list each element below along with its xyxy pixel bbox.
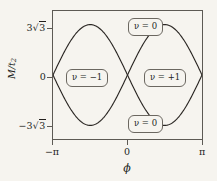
x-tick-mark-right bbox=[202, 140, 203, 145]
x-tick-label-right: π bbox=[187, 146, 217, 157]
x-axis-label: ϕ bbox=[112, 162, 142, 175]
x-tick-label-left: −π bbox=[37, 146, 67, 157]
sqrt-icon: √ bbox=[33, 121, 39, 131]
region-badge-top: ν = 0 bbox=[128, 18, 163, 36]
region-badge-right: ν = +1 bbox=[144, 69, 186, 87]
y-tick-top-radicand: 3 bbox=[39, 21, 46, 33]
y-axis-label: M/t2 bbox=[6, 38, 19, 98]
region-badge-left: ν = −1 bbox=[66, 69, 108, 87]
x-tick-mark-middle bbox=[127, 140, 128, 145]
sqrt-icon: √ bbox=[33, 23, 39, 33]
y-tick-label-bottom: −3√3 bbox=[0, 120, 46, 131]
region-badge-bottom: ν = 0 bbox=[128, 115, 163, 133]
phase-diagram-figure: 3√3 0 −3√3 M/t2 −π 0 π ϕ ν = 0 ν = −1 ν … bbox=[0, 0, 217, 181]
y-tick-bottom-minus: − bbox=[18, 120, 26, 131]
y-tick-label-top: 3√3 bbox=[0, 22, 46, 33]
x-tick-label-middle: 0 bbox=[112, 146, 142, 157]
y-axis-label-text: M/t bbox=[6, 62, 17, 79]
x-tick-mark-left bbox=[52, 140, 53, 145]
y-tick-bottom-radicand: 3 bbox=[39, 119, 46, 131]
y-axis-label-subscript: 2 bbox=[10, 58, 18, 62]
